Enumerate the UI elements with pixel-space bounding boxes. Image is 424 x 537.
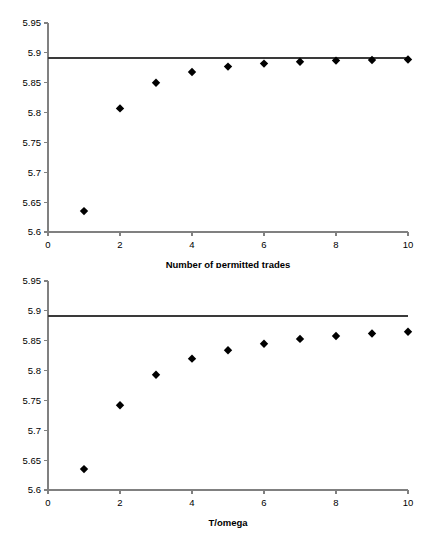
y-tick-label: 5.8: [28, 365, 41, 376]
y-tick-label: 5.8: [28, 107, 41, 118]
y-tick-label: 5.7: [28, 167, 41, 178]
x-tick-label: 6: [261, 239, 266, 250]
x-tick-label: 2: [117, 239, 122, 250]
y-tick-label: 5.6: [28, 484, 41, 495]
y-tick-label: 5.75: [23, 395, 42, 406]
data-point-marker: [368, 329, 376, 337]
data-point-marker: [116, 104, 124, 112]
data-point-marker: [260, 340, 268, 348]
data-point-marker: [260, 59, 268, 67]
data-point-marker: [152, 371, 160, 379]
data-point-marker: [188, 68, 196, 76]
data-point-marker: [404, 55, 412, 63]
plot-axes: [48, 23, 408, 232]
x-tick-label: 8: [333, 497, 338, 508]
y-tick-label: 5.65: [23, 455, 42, 466]
x-axis-title: Number of permitted trades: [166, 259, 291, 268]
x-tick-label: 10: [403, 239, 414, 250]
data-point-marker: [80, 465, 88, 473]
plot-area-bottom: 5.65.655.75.755.85.855.95.950246810T/ome…: [0, 268, 424, 537]
y-tick-label: 5.95: [23, 275, 42, 286]
data-point-marker: [152, 79, 160, 87]
x-tick-label: 4: [189, 497, 194, 508]
x-tick-label: 6: [261, 497, 266, 508]
data-point-marker: [224, 62, 232, 70]
x-tick-label: 10: [403, 497, 414, 508]
data-point-marker: [404, 328, 412, 336]
data-point-marker: [80, 207, 88, 215]
y-tick-label: 5.75: [23, 137, 42, 148]
y-tick-label: 5.9: [28, 47, 41, 58]
x-tick-label: 8: [333, 239, 338, 250]
plot-area-top: 5.65.655.75.755.85.855.95.950246810Numbe…: [0, 0, 424, 268]
data-point-marker: [332, 332, 340, 340]
data-point-marker: [296, 58, 304, 66]
x-tick-label: 2: [117, 497, 122, 508]
x-tick-label: 0: [45, 497, 50, 508]
y-tick-label: 5.85: [23, 335, 42, 346]
data-point-marker: [116, 401, 124, 409]
data-point-marker: [224, 346, 232, 354]
scatter-plot-top: 5.65.655.75.755.85.855.95.950246810Numbe…: [0, 0, 424, 268]
plot-axes: [48, 281, 408, 490]
y-tick-label: 5.95: [23, 17, 42, 28]
y-tick-label: 5.7: [28, 425, 41, 436]
x-axis-title: T/omega: [208, 517, 248, 528]
data-point-marker: [296, 335, 304, 343]
data-point-marker: [188, 354, 196, 362]
y-tick-label: 5.6: [28, 226, 41, 237]
x-tick-label: 0: [45, 239, 50, 250]
chart-permitted-trades: 5.65.655.75.755.85.855.95.950246810Numbe…: [0, 0, 424, 268]
y-tick-label: 5.65: [23, 197, 42, 208]
x-tick-label: 4: [189, 239, 194, 250]
figure-page: 5.65.655.75.755.85.855.95.950246810Numbe…: [0, 0, 424, 537]
chart-t-over-omega: 5.65.655.75.755.85.855.95.950246810T/ome…: [0, 268, 424, 537]
y-tick-label: 5.85: [23, 77, 42, 88]
y-tick-label: 5.9: [28, 305, 41, 316]
scatter-plot-bottom: 5.65.655.75.755.85.855.95.950246810T/ome…: [0, 268, 424, 537]
